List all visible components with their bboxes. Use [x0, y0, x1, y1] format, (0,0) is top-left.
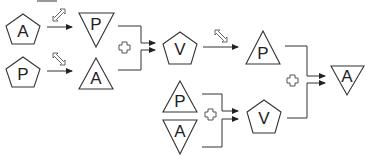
node-triangle-down-a-1: A [163, 120, 197, 154]
node-label: V [174, 40, 186, 59]
combine-bracket-2 [202, 94, 238, 147]
plus-icon [287, 75, 298, 86]
node-triangle-down-p: P [79, 13, 114, 47]
node-triangle-up-a: A [79, 58, 113, 89]
combine-bracket-1 [118, 26, 155, 70]
node-label: P [174, 92, 185, 111]
node-pentagon-v-1: V [163, 32, 197, 64]
diagram-canvas: A P P A V P [0, 0, 369, 160]
node-label: P [90, 15, 101, 34]
resize-diagonal-ne-sw-icon [53, 9, 65, 21]
node-triangle-up-p-1: P [246, 31, 280, 64]
combine-bracket-3 [285, 46, 325, 118]
node-label: A [341, 67, 353, 86]
node-label: A [17, 22, 29, 41]
resize-diagonal-nw-se-icon [53, 53, 65, 65]
node-label: P [257, 44, 268, 63]
node-pentagon-p-1: P [6, 57, 40, 87]
node-label: A [90, 69, 102, 88]
node-triangle-up-p-2: P [163, 81, 197, 112]
node-label: P [17, 65, 28, 84]
node-triangle-down-a-final: A [331, 66, 364, 95]
node-label: A [174, 122, 186, 141]
node-pentagon-v-2: V [247, 100, 281, 133]
plus-icon [119, 42, 130, 53]
plus-icon [205, 109, 216, 120]
node-label: V [258, 109, 270, 128]
node-pentagon-a-1: A [6, 14, 40, 44]
resize-diagonal-nw-se-icon [215, 30, 227, 42]
